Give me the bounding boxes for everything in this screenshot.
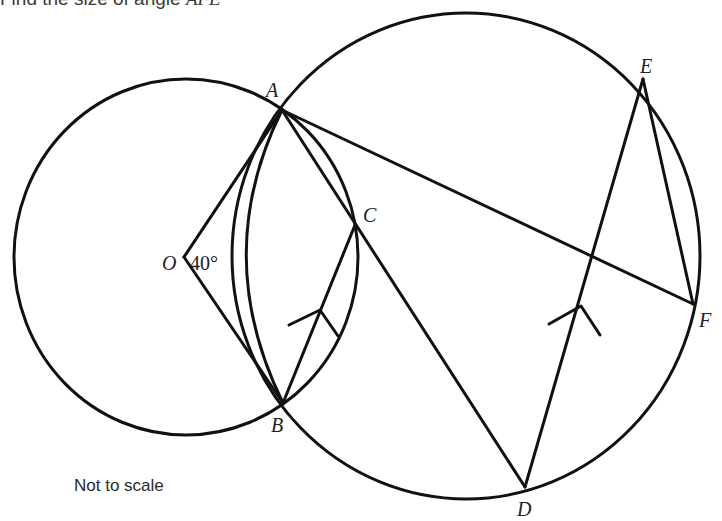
label-D: D bbox=[516, 498, 532, 520]
large-circle bbox=[232, 13, 700, 499]
label-A: A bbox=[264, 79, 279, 101]
label-B: B bbox=[271, 414, 283, 436]
small-circle bbox=[14, 79, 358, 435]
segment-BC bbox=[283, 225, 355, 403]
geometry-figure: A B C D E F O 40° bbox=[0, 0, 722, 521]
label-F: F bbox=[698, 309, 712, 331]
diagram-canvas: Find the size of angle AFE bbox=[0, 0, 722, 521]
angle-O-value: 40° bbox=[190, 252, 218, 274]
parallel-arrow-BC-icon bbox=[289, 310, 338, 336]
label-C: C bbox=[363, 204, 377, 226]
not-to-scale-note: Not to scale bbox=[74, 476, 164, 496]
segment-DE bbox=[525, 79, 643, 487]
label-E: E bbox=[639, 55, 652, 77]
segment-EF bbox=[643, 79, 693, 304]
label-O: O bbox=[162, 252, 176, 274]
